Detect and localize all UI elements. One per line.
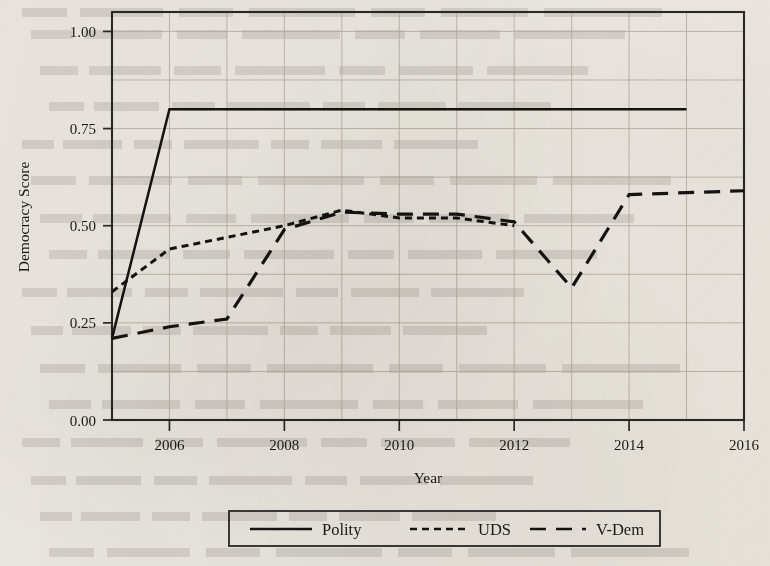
y-tick-label: 0.00 (70, 413, 96, 429)
gridlines (112, 12, 744, 420)
x-tick-label: 2008 (269, 437, 299, 453)
y-tick-label: 0.25 (70, 315, 96, 331)
plot-frame (112, 12, 744, 420)
legend-content: PolityUDSV-Dem (250, 520, 644, 539)
series-line-v-dem (112, 191, 744, 339)
y-axis-label: Democracy Score (15, 162, 32, 273)
y-tick-label: 0.75 (70, 121, 96, 137)
series-line-uds (112, 210, 514, 292)
series-lines (112, 109, 744, 338)
democracy-score-line-chart: Democracy Score Year 0.000.250.500.751.0… (0, 0, 770, 566)
x-tick-marks (169, 420, 744, 431)
y-tick-label: 0.50 (70, 218, 96, 234)
x-tick-labels: 200620082010201220142016 (154, 437, 759, 453)
x-tick-label: 2010 (384, 437, 414, 453)
legend-label-polity: Polity (322, 520, 362, 539)
x-tick-label: 2006 (154, 437, 185, 453)
x-tick-label: 2016 (729, 437, 760, 453)
y-tick-labels: 0.000.250.500.751.00 (70, 24, 96, 429)
legend-label-uds: UDS (478, 520, 511, 539)
y-tick-marks (103, 31, 112, 420)
y-tick-label: 1.00 (70, 24, 96, 40)
x-axis-label: Year (414, 469, 443, 486)
legend-label-v-dem: V-Dem (596, 520, 644, 539)
x-tick-label: 2014 (614, 437, 645, 453)
democracy-score-figure: Democracy Score Year 0.000.250.500.751.0… (0, 0, 770, 566)
x-tick-label: 2012 (499, 437, 529, 453)
